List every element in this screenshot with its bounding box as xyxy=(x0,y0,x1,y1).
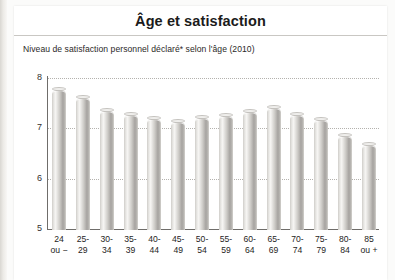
page-title: Âge et satisfaction xyxy=(135,13,266,29)
bar-cap xyxy=(219,113,233,117)
bar-column[interactable] xyxy=(216,64,236,230)
bar-column[interactable] xyxy=(192,64,212,230)
y-axis-tick-label: 8 xyxy=(27,72,42,82)
bar[interactable] xyxy=(243,112,257,230)
page-gutter xyxy=(0,0,7,280)
x-axis-tick-label: 75-79 xyxy=(311,234,331,256)
bar-column[interactable] xyxy=(168,64,188,230)
bar-cap xyxy=(195,115,209,119)
bar-cap xyxy=(76,95,90,99)
x-axis-tick-label: 85ou + xyxy=(359,234,379,256)
bar-column[interactable] xyxy=(97,64,117,230)
x-axis-tick-label: 24ou − xyxy=(49,234,69,256)
x-axis-tick-label: 55-59 xyxy=(216,234,236,256)
bar-series xyxy=(49,64,379,230)
page-background: enquête SRCV 2010 Âge et satisfaction Ni… xyxy=(0,0,395,280)
bar-column[interactable] xyxy=(121,64,141,230)
y-axis-tick-label: 5 xyxy=(27,223,42,233)
x-axis-tick-label: 50-54 xyxy=(192,234,212,256)
bar-column[interactable] xyxy=(49,64,69,230)
x-axis-tick-label: 65-69 xyxy=(264,234,284,256)
chart-title-bar: Âge et satisfaction xyxy=(14,6,387,36)
x-axis-tick-label: 45-49 xyxy=(168,234,188,256)
bar-cap xyxy=(171,119,185,123)
y-axis-line xyxy=(47,76,48,230)
bar[interactable] xyxy=(195,118,209,230)
bar[interactable] xyxy=(171,122,185,230)
bar-column[interactable] xyxy=(287,64,307,230)
chart-subtitle: Niveau de satisfaction personnel déclaré… xyxy=(23,44,255,54)
bar[interactable] xyxy=(100,111,114,230)
bar-column[interactable] xyxy=(144,64,164,230)
bar-cap xyxy=(314,117,328,121)
x-axis-tick-label: 60-64 xyxy=(240,234,260,256)
bar[interactable] xyxy=(314,120,328,230)
bar[interactable] xyxy=(290,115,304,230)
bar-cap xyxy=(290,112,304,116)
bar-column[interactable] xyxy=(311,64,331,230)
bar[interactable] xyxy=(52,90,66,230)
x-axis-tick-label: 70-74 xyxy=(287,234,307,256)
plot-area: 5678 24ou −25-2930-3435-3940-4445-4950-5… xyxy=(23,64,381,280)
y-axis-tick-label: 6 xyxy=(27,173,42,183)
x-axis-tick-label: 25-29 xyxy=(73,234,93,256)
bar[interactable] xyxy=(124,115,138,230)
bar-column[interactable] xyxy=(335,64,355,230)
chart-card: Âge et satisfaction Niveau de satisfacti… xyxy=(14,6,387,280)
bar-cap xyxy=(338,133,352,137)
bar-cap xyxy=(243,109,257,113)
bar[interactable] xyxy=(338,136,352,230)
y-axis-tick-label: 7 xyxy=(27,122,42,132)
x-axis-labels: 24ou −25-2930-3435-3940-4445-4950-5455-5… xyxy=(49,234,379,256)
bar-cap xyxy=(124,112,138,116)
bar-column[interactable] xyxy=(359,64,379,230)
bar-column[interactable] xyxy=(240,64,260,230)
x-axis-tick-label: 30-34 xyxy=(97,234,117,256)
bar[interactable] xyxy=(76,98,90,230)
bar-column[interactable] xyxy=(264,64,284,230)
x-axis-tick-label: 35-39 xyxy=(121,234,141,256)
bar-cap xyxy=(52,87,66,91)
bar-cap xyxy=(267,105,281,109)
bar[interactable] xyxy=(219,116,233,230)
x-axis-tick-label: 80-84 xyxy=(335,234,355,256)
bar-cap xyxy=(362,142,376,146)
bar-column[interactable] xyxy=(73,64,93,230)
bar[interactable] xyxy=(267,108,281,230)
x-axis-tick-label: 40-44 xyxy=(144,234,164,256)
bar[interactable] xyxy=(147,119,161,230)
bar-cap xyxy=(147,116,161,120)
bar-cap xyxy=(100,108,114,112)
bar[interactable] xyxy=(362,145,376,230)
